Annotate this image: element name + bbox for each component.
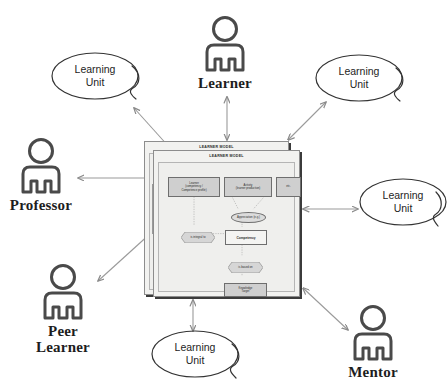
node-label: Learner (competency / Competence profile… — [181, 182, 206, 192]
node-label: Appreciation (e.g.) — [237, 216, 260, 219]
node-competency[interactable]: Competency — [225, 230, 267, 245]
actor-mentor[interactable]: Mentor — [325, 303, 421, 380]
learning-unit-label: Learning Unit — [152, 330, 238, 378]
node-is-based-on[interactable]: is based on — [228, 262, 263, 273]
person-icon — [345, 303, 401, 363]
node-activity[interactable]: Activity (learner production) — [224, 177, 272, 197]
node-label: Knowledge Target — [239, 287, 253, 294]
node-appreciation[interactable]: Appreciation (e.g.) — [231, 212, 266, 223]
actor-label: Professor — [10, 197, 72, 213]
learning-unit-topleft[interactable]: Learning Unit — [52, 52, 138, 100]
actor-peer-learner[interactable]: Peer Learner — [15, 262, 111, 355]
actor-professor[interactable]: Professor — [0, 136, 89, 213]
node-knowledge-target[interactable]: Knowledge Target — [224, 283, 267, 297]
node-label: Competency — [236, 236, 255, 240]
learning-unit-label: Learning Unit — [52, 52, 138, 100]
connector-panel-lu-topright — [288, 102, 326, 140]
node-label: etc. — [286, 185, 291, 188]
node-etc[interactable]: etc. — [276, 177, 301, 197]
person-icon — [13, 136, 69, 196]
panel-canvas-front: Learner (competency / Competence profile… — [158, 162, 295, 292]
person-icon — [35, 262, 91, 322]
learning-unit-topright[interactable]: Learning Unit — [316, 54, 402, 102]
node-label: is integral to — [190, 236, 205, 239]
learning-unit-bottom[interactable]: Learning Unit — [152, 330, 238, 378]
panel-title: LEARNER MODEL — [154, 151, 299, 158]
diagram-canvas: Learning Unit Learning Unit Learning Uni… — [0, 0, 447, 392]
person-icon — [197, 14, 253, 74]
learner-model-panel-front[interactable]: LEARNER MODEL — [153, 150, 300, 297]
actor-label: Learner — [198, 75, 252, 91]
node-label: is based on — [238, 266, 252, 269]
actor-learner[interactable]: Learner — [177, 14, 273, 91]
node-is-integral-to[interactable]: is integral to — [181, 232, 215, 243]
actor-label: Peer Learner — [36, 323, 90, 355]
panel-title: LEARNER MODEL — [145, 142, 288, 149]
node-learner-profile[interactable]: Learner (competency / Competence profile… — [168, 177, 220, 197]
learning-unit-right[interactable]: Learning Unit — [360, 178, 446, 226]
actor-label: Mentor — [348, 364, 398, 380]
learning-unit-label: Learning Unit — [316, 54, 402, 102]
learning-unit-label: Learning Unit — [360, 178, 446, 226]
node-label: Activity (learner production) — [236, 184, 260, 191]
